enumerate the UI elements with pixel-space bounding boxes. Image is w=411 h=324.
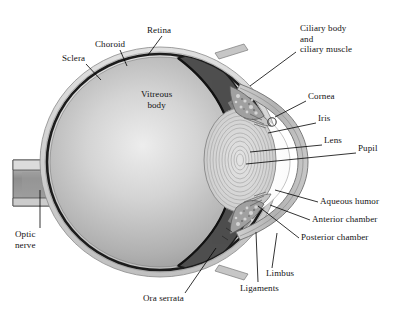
label-ligaments: Ligaments bbox=[240, 283, 279, 294]
leader-limbus bbox=[272, 233, 277, 268]
label-lens: Lens bbox=[324, 135, 342, 146]
label-anterior-chamber: Anterior chamber bbox=[312, 214, 377, 225]
leader-ciliary-body-and-ciliary-muscle bbox=[250, 52, 296, 86]
label-vitreous-body: Vitreous body bbox=[141, 89, 172, 110]
eye-anatomy-figure: ScleraChoroidRetinaCiliary body and cili… bbox=[0, 0, 411, 324]
label-ciliary-body-and-ciliary-muscle: Ciliary body and ciliary muscle bbox=[300, 23, 352, 55]
label-posterior-chamber: Posterior chamber bbox=[301, 232, 368, 243]
label-iris: Iris bbox=[318, 113, 330, 124]
label-cornea: Cornea bbox=[308, 91, 335, 102]
label-retina: Retina bbox=[147, 25, 171, 36]
label-choroid: Choroid bbox=[95, 39, 125, 50]
label-ora-serrata: Ora serrata bbox=[143, 293, 184, 304]
label-sclera: Sclera bbox=[62, 53, 85, 64]
label-pupil: Pupil bbox=[358, 143, 378, 154]
label-aqueous-humor: Aqueous humor bbox=[320, 196, 379, 207]
label-limbus: Limbus bbox=[266, 268, 294, 279]
leader-ligaments bbox=[256, 232, 258, 282]
label-optic-nerve: Optic nerve bbox=[15, 229, 36, 250]
